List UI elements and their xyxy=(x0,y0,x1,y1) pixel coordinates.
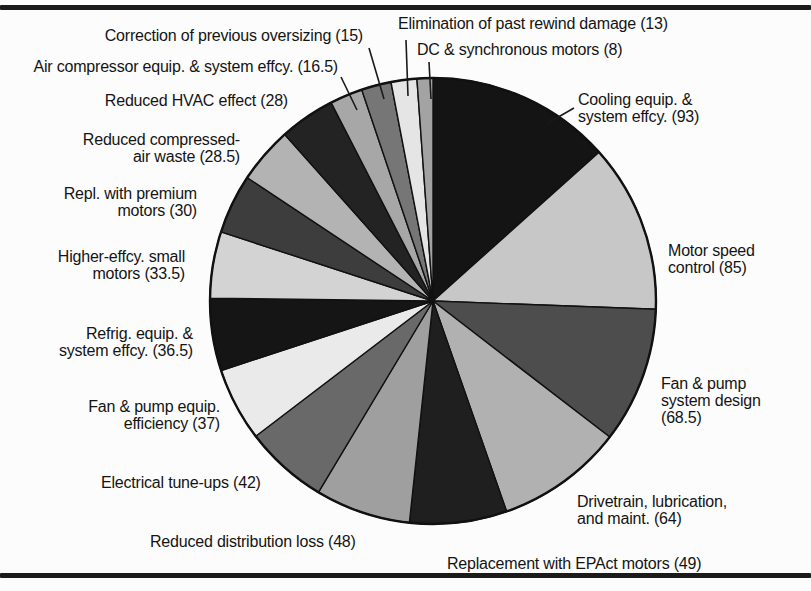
callout-text-line: Motor speed xyxy=(668,242,755,259)
slice-callout-11: Fan & pumpsystem design(68.5) xyxy=(661,375,761,426)
slice-callout-14: Drivetrain, lubrication,and maint. (64) xyxy=(577,493,727,527)
callout-text-line: Fan & pump equip. xyxy=(88,398,220,415)
slice-callout-6: Reduced compressed-air waste (28.5) xyxy=(83,131,240,165)
callout-text-line: control (85) xyxy=(668,259,755,276)
callout-text-line: Air compressor equip. & system effcy. (1… xyxy=(34,58,339,75)
slice-callout-2: Correction of previous oversizing (15) xyxy=(105,27,363,44)
callout-text-line: air waste (28.5) xyxy=(83,148,240,165)
bottom-rule xyxy=(0,573,811,578)
callout-text-line: Reduced HVAC effect (28) xyxy=(105,92,288,109)
slice-callout-13: Electrical tune-ups (42) xyxy=(101,474,261,491)
callout-text-line: (68.5) xyxy=(661,409,761,426)
callout-text-line: Higher-effcy. small xyxy=(58,248,185,265)
slice-callout-15: Reduced distribution loss (48) xyxy=(150,533,356,550)
callout-text-line: Reduced compressed- xyxy=(83,131,240,148)
slice-callout-12: Fan & pump equip.efficiency (37) xyxy=(88,398,220,432)
slice-callout-10: Refrig. equip. &system effcy. (36.5) xyxy=(59,325,193,359)
pie-chart-figure: Elimination of past rewind damage (13)DC… xyxy=(0,0,811,591)
callout-text-line: Replacement with EPAct motors (49) xyxy=(447,555,701,572)
callout-text-line: motors (33.5) xyxy=(58,265,185,282)
slice-callout-3: Air compressor equip. & system effcy. (1… xyxy=(34,58,339,75)
slice-callout-1: DC & synchronous motors (8) xyxy=(417,41,622,58)
callout-text-line: system effcy. (36.5) xyxy=(59,342,193,359)
callout-text-line: and maint. (64) xyxy=(577,510,727,527)
callout-text-line: system effcy. (93) xyxy=(578,108,699,125)
callout-text-line: Cooling equip. & xyxy=(578,91,699,108)
callout-text-line: Correction of previous oversizing (15) xyxy=(105,27,363,44)
callout-text-line: motors (30) xyxy=(64,202,197,219)
callout-text-line: Reduced distribution loss (48) xyxy=(150,533,356,550)
callout-text-line: DC & synchronous motors (8) xyxy=(417,41,622,58)
callout-text-line: system design xyxy=(661,392,761,409)
slice-callout-0: Elimination of past rewind damage (13) xyxy=(398,15,668,32)
callout-text-line: Repl. with premium xyxy=(64,185,197,202)
slice-callout-4: Cooling equip. &system effcy. (93) xyxy=(578,91,699,125)
callout-text-line: Drivetrain, lubrication, xyxy=(577,493,727,510)
slice-callout-9: Higher-effcy. smallmotors (33.5) xyxy=(58,248,185,282)
callout-text-line: Refrig. equip. & xyxy=(59,325,193,342)
slice-callout-8: Motor speedcontrol (85) xyxy=(668,242,755,276)
slice-callout-16: Replacement with EPAct motors (49) xyxy=(447,555,701,572)
slice-callout-5: Reduced HVAC effect (28) xyxy=(105,92,288,109)
slice-callout-7: Repl. with premiummotors (30) xyxy=(64,185,197,219)
callout-text-line: Electrical tune-ups (42) xyxy=(101,474,261,491)
callout-text-line: Elimination of past rewind damage (13) xyxy=(398,15,668,32)
callout-text-line: Fan & pump xyxy=(661,375,761,392)
callout-text-line: efficiency (37) xyxy=(88,415,220,432)
